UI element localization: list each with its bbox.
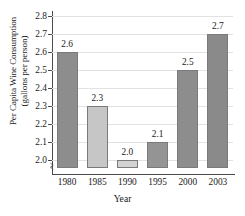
bar-value-label: 2.1 [152,129,164,139]
gridline [52,70,233,71]
x-axis-title: Year [0,193,245,204]
y-tick-label: 2.1 [35,137,47,147]
x-tick-label: 1985 [88,177,107,187]
x-tick-label: 2003 [209,177,228,187]
gridline [52,16,233,17]
bar [147,142,168,168]
x-axis-line [52,174,235,175]
gridline [52,34,233,35]
bar-chart: Per Capita Wine Consumption (gallons per… [0,0,245,216]
gridline [52,88,233,89]
x-tick-label: 1995 [148,177,167,187]
gridline [52,124,233,125]
gridline [52,142,233,143]
plot-area: 2.82.72.62.52.42.32.22.12.0 2.62.32.02.1… [52,12,233,168]
bar [177,70,198,168]
gridline [52,106,233,107]
y-tick-mark [48,142,52,143]
y-tick-mark [48,16,52,17]
x-tick-label: 2000 [178,177,197,187]
gridline [52,160,233,161]
bar [57,52,78,168]
y-axis-title: Per Capita Wine Consumption (gallons per… [4,0,34,146]
y-tick-label: 2.0 [35,155,47,165]
y-tick-mark [48,88,52,89]
y-tick-label: 2.6 [35,47,47,57]
y-tick-mark [48,124,52,125]
bar-value-label: 2.7 [212,21,224,31]
y-tick-mark [48,52,52,53]
bar-value-label: 2.3 [91,93,103,103]
gridline [52,52,233,53]
y-tick-mark [48,70,52,71]
y-tick-label: 2.3 [35,101,47,111]
bar-value-label: 2.0 [122,147,134,157]
y-axis-title-line1: Per Capita Wine Consumption [8,17,19,125]
y-tick-label: 2.8 [35,11,47,21]
bar [207,34,228,168]
bar-value-label: 2.5 [182,57,194,67]
bar [117,160,138,168]
y-tick-label: 2.4 [35,83,47,93]
y-tick-mark [48,106,52,107]
y-tick-label: 2.2 [35,119,47,129]
y-axis-title-line2: (gallons per person) [19,36,30,107]
y-tick-label: 2.5 [35,65,47,75]
x-tick-label: 1990 [118,177,137,187]
x-tick-label: 1980 [58,177,77,187]
y-tick-mark [48,160,52,161]
y-tick-label: 2.7 [35,29,47,39]
y-tick-mark [48,34,52,35]
bar-value-label: 2.6 [61,39,73,49]
bar [87,106,108,168]
